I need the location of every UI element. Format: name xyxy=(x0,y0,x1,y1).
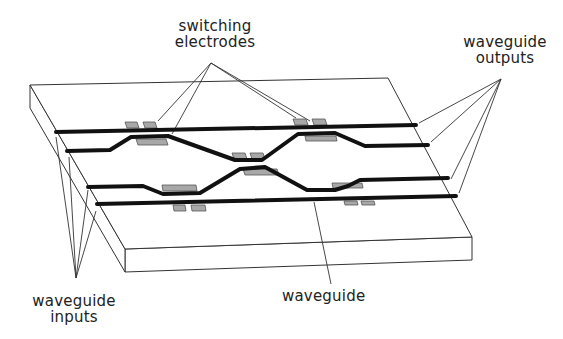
label-line: outputs xyxy=(455,50,555,66)
label-line: switching xyxy=(160,18,270,34)
electrode xyxy=(173,205,186,211)
electrode xyxy=(293,119,308,125)
electrode xyxy=(125,122,139,128)
electrode xyxy=(191,205,206,211)
label-line: waveguide xyxy=(282,287,365,305)
label-waveguide-inputs: waveguide inputs xyxy=(22,293,126,325)
electrode xyxy=(312,119,327,125)
label-line: electrodes xyxy=(160,34,270,50)
electrode xyxy=(162,185,197,191)
electrode xyxy=(143,122,157,128)
label-line: waveguide xyxy=(455,34,555,50)
electrode xyxy=(136,139,168,145)
label-waveguide-outputs: waveguide outputs xyxy=(455,34,555,66)
label-line: inputs xyxy=(22,309,126,325)
diagram-stage: switching electrodes waveguide outputs w… xyxy=(0,0,563,339)
electrode xyxy=(305,136,337,141)
electrode xyxy=(361,201,375,205)
label-line: waveguide xyxy=(22,293,126,309)
label-switching-electrodes: switching electrodes xyxy=(160,18,270,50)
label-waveguide: waveguide xyxy=(282,288,382,304)
electrode xyxy=(344,201,358,205)
